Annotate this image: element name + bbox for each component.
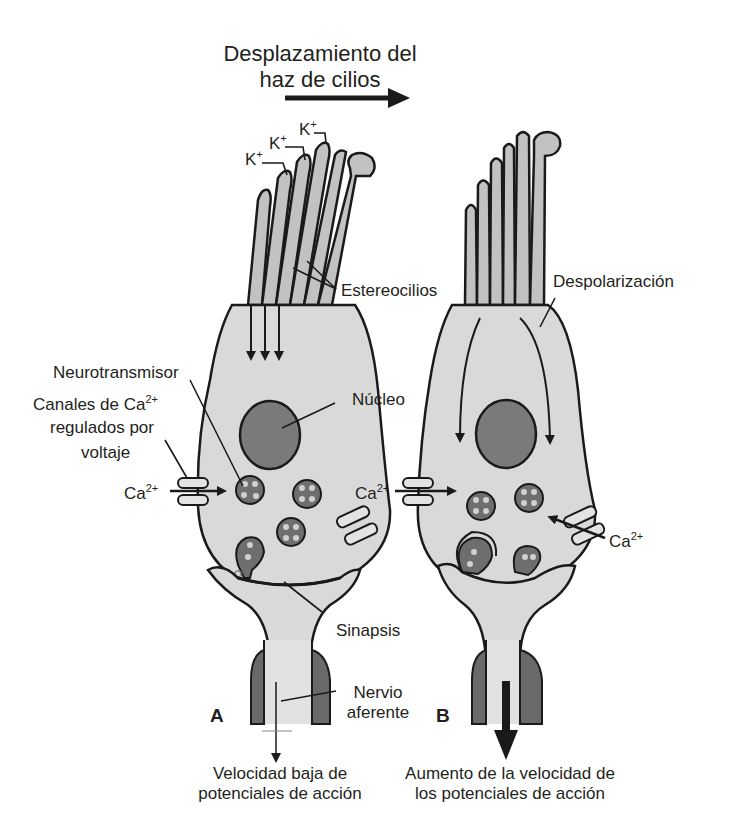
k-charge: + (256, 148, 262, 160)
hair-cell-a (170, 143, 390, 758)
label-k-ion-3: K+ (299, 120, 317, 140)
ca-charge: 2+ (631, 530, 644, 542)
stereocilia-b (465, 132, 560, 305)
caption-b-line-2: los potenciales de acción (385, 784, 635, 804)
caption-b: Aumento de la velocidad de los potencial… (385, 764, 635, 804)
label-regulados-por: regulados por (50, 418, 154, 438)
caption-a-line-1: Velocidad baja de (180, 764, 380, 784)
label-sinapsis: Sinapsis (336, 621, 400, 641)
ca-symbol: Ca (124, 484, 146, 503)
figure-title: Desplazamiento del haz de cilios (195, 41, 445, 93)
label-ca-in-a: Ca2+ (124, 484, 158, 504)
caption-b-line-1: Aumento de la velocidad de (385, 764, 635, 784)
nucleus-b (476, 400, 536, 468)
title-line-2: haz de cilios (195, 67, 445, 93)
label-k-ion-2: K+ (269, 134, 287, 154)
ca-symbol: Ca (609, 532, 631, 551)
caption-a: Velocidad baja de potenciales de acción (180, 764, 380, 804)
nucleus-a (240, 401, 300, 469)
caption-a-line-2: potenciales de acción (180, 784, 380, 804)
ca-symbol: Ca (355, 484, 377, 503)
label-despolarizacion: Despolarización (553, 272, 674, 292)
ca-charge: 2+ (146, 482, 159, 494)
ca-charge: 2+ (145, 393, 158, 405)
label-canales-ca: Canales de Ca2+ (33, 395, 158, 415)
k-charge: + (310, 118, 316, 130)
label-neurotransmisor: Neurotransmisor (53, 363, 179, 383)
k-symbol: K (245, 150, 256, 169)
label-ca-left-b: Ca2+ (355, 484, 389, 504)
panel-letter-a: A (210, 706, 224, 726)
label-k-ion-1: K+ (245, 150, 263, 170)
ca-charge: 2+ (377, 482, 390, 494)
panel-letter-b: B (436, 706, 450, 726)
nervio-line-2: aferente (338, 703, 418, 723)
k-charge: + (280, 132, 286, 144)
label-estereocilios: Estereocilios (341, 281, 437, 301)
k-symbol: K (269, 134, 280, 153)
nervio-line-1: Nervio (338, 683, 418, 703)
hair-cell-b (395, 132, 606, 760)
label-ca-right-b: Ca2+ (609, 532, 643, 552)
title-line-1: Desplazamiento del (195, 41, 445, 67)
label-voltaje: voltaje (81, 443, 130, 463)
label-nucleo: Núcleo (352, 390, 405, 410)
k-symbol: K (299, 120, 310, 139)
label-nervio-aferente: Nervio aferente (338, 683, 418, 723)
canales-text: Canales de Ca (33, 395, 145, 414)
